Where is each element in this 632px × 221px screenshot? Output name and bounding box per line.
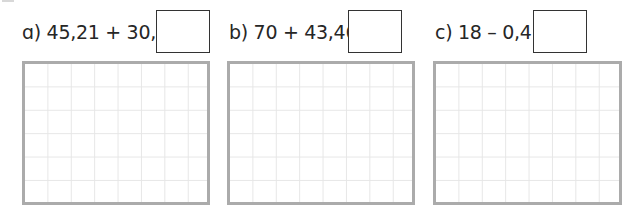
worksheet: ɑ) 45,21 + 30,2 = b) 70 + 43,46 = c) 18 …	[0, 0, 632, 221]
cropped-glyph-fragment	[2, 0, 14, 2]
exercise-b-answer-box[interactable]	[348, 10, 402, 53]
exercise-c-answer-box[interactable]	[533, 10, 587, 53]
exercise-b-work-grid[interactable]	[227, 61, 415, 205]
exercise-a-work-grid[interactable]	[22, 61, 210, 205]
exercise-c-work-grid[interactable]	[433, 61, 622, 205]
exercise-a-answer-box[interactable]	[156, 10, 210, 53]
